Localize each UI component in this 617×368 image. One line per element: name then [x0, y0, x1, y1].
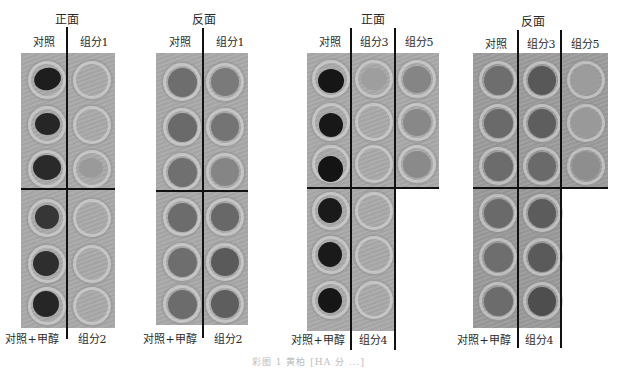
- panel-3-column-divider-1: [350, 28, 352, 350]
- panel-2-label-fraction1: 组分1: [208, 33, 252, 49]
- panel-3-label-control-methanol: 对照+甲醇: [288, 331, 348, 347]
- well-spot: [79, 158, 103, 178]
- panel-1-label-control-methanol: 对照+甲醇: [2, 330, 62, 346]
- panel-3-label-control: 对照: [310, 33, 350, 49]
- panel-2-label-control: 对照: [160, 33, 200, 49]
- well-spot: [33, 291, 59, 317]
- well-spot: [35, 113, 60, 135]
- well-spot: [33, 251, 59, 276]
- panel-4-label-fraction3: 组分3: [519, 35, 563, 51]
- well-spot: [33, 155, 61, 180]
- panel-4-title: 反面: [503, 12, 563, 29]
- panel-3-column-divider-2: [394, 28, 396, 350]
- panel-1-label-fraction2: 组分2: [72, 330, 112, 346]
- panel-2-row-divider: [156, 190, 248, 192]
- panel-3-label-fraction3: 组分3: [352, 33, 396, 49]
- panel-1-label-fraction1: 组分1: [72, 33, 116, 49]
- panel-4-label-control-methanol: 对照+甲醇: [453, 331, 515, 347]
- panel-3-row-divider: [307, 187, 439, 189]
- panel-4-label-fraction5: 组分5: [563, 35, 607, 51]
- panel-4-label-control: 对照: [476, 35, 516, 51]
- panel-2-label-fraction2: 组分2: [208, 330, 248, 346]
- panel-4-column-divider-1: [517, 30, 519, 348]
- panel-4-column-divider-2: [560, 30, 562, 348]
- panel-1-title: 正面: [37, 10, 97, 27]
- panel-1-plate-photo: [21, 53, 115, 328]
- panel-3-label-fraction4: 组分4: [353, 331, 393, 347]
- panel-3-label-fraction5: 组分5: [397, 33, 441, 49]
- panel-3-plate-photo-top: [307, 53, 439, 188]
- panel-4-row-divider: [473, 187, 608, 189]
- panel-4-plate-photo-top: [473, 53, 608, 188]
- panel-2-label-control-methanol: 对照+甲醇: [140, 330, 200, 346]
- panel-1-column-divider: [66, 27, 68, 339]
- well-spot: [35, 205, 59, 229]
- panel-1-label-control: 对照: [24, 33, 64, 49]
- panel-2-column-divider: [202, 28, 204, 338]
- panel-2-title: 反面: [174, 10, 234, 27]
- panel-3-title: 正面: [343, 10, 403, 27]
- panel-4-label-fraction4: 组分4: [519, 331, 559, 347]
- figure-caption: 彩图 1 黄柏 [HA 分 ...]: [0, 355, 617, 368]
- panel-1-row-divider: [21, 188, 115, 190]
